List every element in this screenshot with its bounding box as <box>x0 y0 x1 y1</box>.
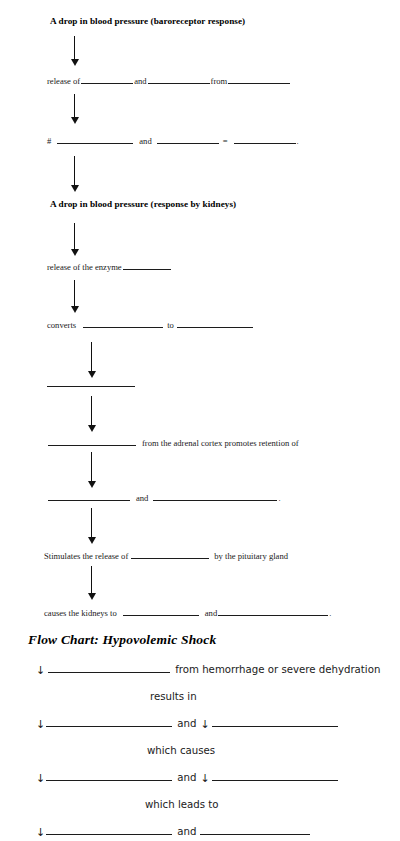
flow-row-1-text: from hemorrhage or severe dehydration <box>175 664 380 675</box>
blank-field[interactable] <box>177 320 253 328</box>
step-connector-and: and <box>205 608 217 618</box>
step-pituitary: Stimulates the release ofby the pituitar… <box>44 551 288 561</box>
step-enzyme: release of the enzyme <box>47 262 172 272</box>
blank-field[interactable] <box>46 826 172 835</box>
blank-field[interactable] <box>212 718 338 727</box>
arrow-down-icon: ↓ <box>36 773 45 784</box>
section-one-heading: A drop in blood pressure (baroreceptor r… <box>50 16 245 26</box>
blank-field[interactable] <box>57 136 133 144</box>
step-and-blank: and. <box>47 493 281 503</box>
flow-arrow-down <box>70 156 79 194</box>
step-kidneys: causes the kidneys toand. <box>44 608 331 618</box>
blank-field[interactable] <box>46 772 172 781</box>
step-connector-and: and <box>136 493 148 503</box>
step-connector-to: to <box>167 320 174 330</box>
step-release-of: release ofandfrom <box>47 76 291 86</box>
step-hash-equation: #and=. <box>47 136 299 146</box>
arrow-down-icon: ↓ <box>36 665 45 676</box>
blank-field[interactable] <box>48 493 130 501</box>
flow-arrow-down <box>70 36 79 67</box>
step-label-pituitary: by the pituitary gland <box>214 551 288 561</box>
step-connector-from: from <box>211 76 228 86</box>
flow-row-4: ↓and <box>36 826 311 838</box>
step-label-enzyme: release of the enzyme <box>47 262 122 272</box>
flow-arrow-down <box>70 94 79 125</box>
blank-field[interactable] <box>153 493 277 501</box>
step-connector-and: and <box>134 76 146 86</box>
blank-field[interactable] <box>157 136 219 144</box>
blank-field[interactable] <box>212 772 338 781</box>
flow-arrow-down <box>87 452 96 490</box>
flow-connector-which-leads-to: which leads to <box>145 799 219 810</box>
blank-field[interactable] <box>123 608 199 616</box>
step-label-causes-kidneys: causes the kidneys to <box>44 608 117 618</box>
flow-row-2: ↓and↓ <box>36 718 339 730</box>
flow-chart-title: Flow Chart: Hypovolemic Shock <box>28 632 216 648</box>
flow-row-2-connector: and <box>177 718 196 729</box>
step-label-release-of: release of <box>47 76 80 86</box>
flow-row-4-connector: and <box>177 826 196 837</box>
blank-field[interactable] <box>131 551 209 559</box>
flow-row-3-connector: and <box>177 772 196 783</box>
step-trailing-period: . <box>297 136 299 146</box>
flow-row-1: ↓from hemorrhage or severe dehydration <box>36 664 380 676</box>
flow-arrow-down <box>87 342 96 380</box>
flow-arrow-down <box>70 280 79 314</box>
flow-arrow-down <box>70 223 79 257</box>
arrow-down-icon: ↓ <box>200 719 209 730</box>
section-two-heading: A drop in blood pressure (response by ki… <box>50 199 236 209</box>
blank-field[interactable] <box>200 826 310 835</box>
blank-field[interactable] <box>148 76 210 84</box>
step-converts: convertsto <box>47 320 254 330</box>
step-label-converts: converts <box>47 320 76 330</box>
blank-field[interactable] <box>123 262 171 270</box>
blank-field[interactable] <box>218 608 328 616</box>
flow-arrow-down <box>87 508 96 546</box>
blank-field[interactable] <box>234 136 296 144</box>
arrow-down-icon: ↓ <box>36 827 45 838</box>
flow-arrow-down <box>87 396 96 434</box>
step-trailing-period: . <box>278 493 280 503</box>
flow-arrow-down <box>87 566 96 601</box>
blank-field[interactable] <box>47 386 135 387</box>
arrow-down-icon: ↓ <box>36 719 45 730</box>
blank-field[interactable] <box>228 76 290 84</box>
blank-field[interactable] <box>48 664 170 673</box>
step-label-adrenal: from the adrenal cortex promotes retenti… <box>142 438 299 448</box>
flow-row-3: ↓and↓ <box>36 772 339 784</box>
blank-field[interactable] <box>46 718 172 727</box>
blank-field[interactable] <box>81 76 133 84</box>
step-connector-equals: = <box>223 136 228 146</box>
worksheet-page: A drop in blood pressure (baroreceptor r… <box>0 0 400 841</box>
step-adrenal-cortex: from the adrenal cortex promotes retenti… <box>47 438 299 448</box>
step-label-hash: # <box>47 136 51 146</box>
flow-connector-results-in: results in <box>150 691 197 702</box>
step-trailing-period: . <box>329 608 331 618</box>
blank-field[interactable] <box>83 320 163 328</box>
flow-connector-which-causes: which causes <box>147 745 215 756</box>
step-connector-and: and <box>139 136 151 146</box>
step-label-stimulates: Stimulates the release of <box>44 551 128 561</box>
arrow-down-icon: ↓ <box>200 773 209 784</box>
blank-field[interactable] <box>48 438 136 446</box>
